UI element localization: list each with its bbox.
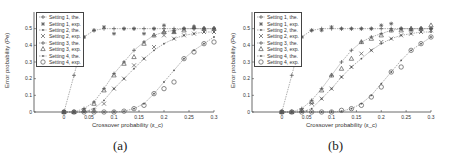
asterisk-marker-icon <box>257 21 265 27</box>
y-axis-label-b: Error probability (Pe) <box>230 33 236 88</box>
dot-marker-icon <box>39 53 47 59</box>
y-tick-label: 0.3 <box>25 59 32 65</box>
legend-label: Setting 3, the. <box>267 40 298 46</box>
x-tick-label: 0.25 <box>401 114 411 120</box>
series-setting-2-the <box>63 31 215 113</box>
series-setting-2-the <box>281 31 432 113</box>
y-tick-label: 0.2 <box>243 75 250 81</box>
triangle-marker-icon <box>257 46 265 52</box>
series-setting-1-exp <box>280 22 433 114</box>
asterisk-marker-icon <box>39 21 47 27</box>
y-tick-label: 0 <box>247 109 250 115</box>
legend-item: Setting 3, exp. <box>257 46 299 52</box>
y-tick-label: 0.3 <box>243 59 250 65</box>
plus-marker-icon <box>257 40 265 46</box>
series-setting-2-exp <box>62 30 216 114</box>
dot-marker-icon <box>257 27 265 33</box>
series-setting-4-exp <box>280 35 434 114</box>
circle-marker-icon <box>39 59 47 65</box>
legend-label: Setting 2, the. <box>49 27 80 33</box>
x-axis-label-b: Crossover probability (ε_c) <box>306 122 377 128</box>
series-setting-1-the <box>280 27 433 114</box>
y-tick-label: 0 <box>29 109 32 115</box>
y-tick-label: 0.2 <box>25 75 32 81</box>
plus-marker-icon <box>39 14 47 20</box>
legend-item: Setting 4, the. <box>257 52 299 58</box>
legend-item: Setting 4, exp. <box>257 59 299 65</box>
x-tick-label: 0 <box>63 114 66 120</box>
x-tick-label: 0 <box>280 114 283 120</box>
legend-label: Setting 3, exp. <box>49 46 81 52</box>
legend-item: Setting 1, exp. <box>257 20 299 26</box>
legend-label: Setting 3, the. <box>49 40 80 46</box>
y-axis-label-a: Error probability (Pe) <box>4 33 10 88</box>
x-tick-label: 0.1 <box>328 114 335 120</box>
series-setting-1-exp <box>62 23 216 114</box>
series-setting-3-the <box>62 27 216 114</box>
legend-label: Setting 4, exp. <box>49 59 81 65</box>
series-setting-4-the <box>63 36 215 113</box>
legend-item: Setting 2, the. <box>257 27 299 33</box>
x-tick-label: 0.3 <box>211 114 218 120</box>
legend-item: Setting 1, the. <box>39 14 81 20</box>
plus-marker-icon <box>39 40 47 46</box>
dot-marker-icon <box>257 53 265 59</box>
series-setting-4-the <box>281 36 432 113</box>
caption-a: (a) <box>113 138 127 154</box>
legend-item: Setting 4, the. <box>39 52 81 58</box>
x-marker-icon <box>39 33 47 39</box>
legend-label: Setting 1, the. <box>267 14 298 20</box>
y-tick-label: 0.5 <box>25 25 32 31</box>
legend-item: Setting 1, the. <box>257 14 299 20</box>
legend-item: Setting 1, exp. <box>39 20 81 26</box>
series-setting-3-the <box>280 27 433 114</box>
legend-label: Setting 2, exp. <box>49 33 81 39</box>
x-tick-label: 0.05 <box>302 114 312 120</box>
x-tick-label: 0.2 <box>161 114 168 120</box>
plus-marker-icon <box>257 14 265 20</box>
legend-a: Setting 1, the.Setting 1, exp.Setting 2,… <box>36 12 84 67</box>
legend-item: Setting 4, exp. <box>39 59 81 65</box>
legend-label: Setting 3, exp. <box>267 46 299 52</box>
series-setting-2-exp <box>280 28 433 114</box>
legend-label: Setting 2, exp. <box>267 33 299 39</box>
legend-item: Setting 3, exp. <box>39 46 81 52</box>
legend-label: Setting 4, the. <box>49 53 80 59</box>
x-tick-label: 0.15 <box>352 114 362 120</box>
x-marker-icon <box>257 33 265 39</box>
x-axis-label-a: Crossover probability (ε_c) <box>92 122 163 128</box>
y-tick-label: 0.4 <box>25 42 32 48</box>
caption-b: (b) <box>328 138 343 154</box>
legend-item: Setting 2, exp. <box>39 33 81 39</box>
legend-item: Setting 3, the. <box>39 40 81 46</box>
figure-panel-b: 00.050.10.150.20.250.300.10.20.30.40.5 E… <box>226 0 452 159</box>
x-tick-label: 0.25 <box>184 114 194 120</box>
triangle-marker-icon <box>39 46 47 52</box>
legend-label: Setting 1, exp. <box>267 21 299 27</box>
x-tick-label: 0.05 <box>84 114 94 120</box>
series-setting-1-the <box>62 27 216 114</box>
plot-a: 00.050.10.150.20.250.300.10.20.30.40.5 <box>0 0 226 159</box>
y-tick-label: 0.5 <box>243 25 250 31</box>
legend-label: Setting 4, exp. <box>267 59 299 65</box>
y-tick-label: 0.4 <box>243 42 250 48</box>
legend-item: Setting 2, exp. <box>257 33 299 39</box>
legend-label: Setting 4, the. <box>267 53 298 59</box>
x-tick-label: 0.3 <box>428 114 435 120</box>
circle-marker-icon <box>257 59 265 65</box>
figure-panel-a: 00.050.10.150.20.250.300.10.20.30.40.5 E… <box>0 0 226 159</box>
y-tick-label: 0.1 <box>243 92 250 98</box>
dot-marker-icon <box>39 27 47 33</box>
legend-label: Setting 2, the. <box>267 27 298 33</box>
y-tick-label: 0.1 <box>25 92 32 98</box>
x-tick-label: 0.2 <box>378 114 385 120</box>
legend-label: Setting 1, exp. <box>49 21 81 27</box>
legend-item: Setting 3, the. <box>257 40 299 46</box>
legend-label: Setting 1, the. <box>49 14 80 20</box>
x-tick-label: 0.15 <box>134 114 144 120</box>
legend-item: Setting 2, the. <box>39 27 81 33</box>
x-tick-label: 0.1 <box>111 114 118 120</box>
legend-b: Setting 1, the.Setting 1, exp.Setting 2,… <box>254 12 302 67</box>
